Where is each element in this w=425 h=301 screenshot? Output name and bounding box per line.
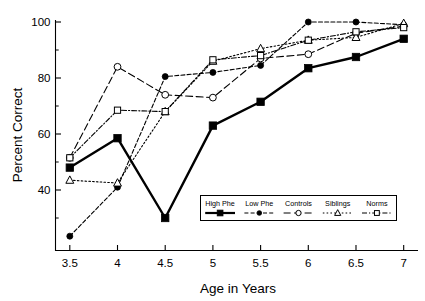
x-tick-label: 3.5 <box>62 257 78 269</box>
data-point-marker-filled-circle <box>353 19 359 25</box>
data-point-marker-open-circle <box>210 94 217 101</box>
x-tick-label: 5 <box>210 257 216 269</box>
data-point-marker-filled-circle <box>258 62 264 68</box>
legend-label: Controls <box>285 199 312 208</box>
x-tick-label: 6 <box>305 257 311 269</box>
data-point-marker-open-square <box>257 53 263 59</box>
data-point-marker-filled-square <box>114 135 121 142</box>
data-point-marker-filled-circle <box>162 74 168 80</box>
x-tick-label: 7 <box>400 257 406 269</box>
x-tick-label: 5.5 <box>253 257 269 269</box>
data-point-marker-filled-square <box>257 98 264 105</box>
data-point-marker-open-square <box>114 107 120 113</box>
x-tick-label: 6.5 <box>348 257 364 269</box>
data-point-marker-filled-square <box>66 164 73 171</box>
data-point-marker-open-square <box>353 29 359 35</box>
data-point-marker-filled-square <box>162 214 169 221</box>
data-point-marker-filled-square <box>400 35 407 42</box>
x-axis-title: Age in Years <box>200 281 276 296</box>
legend-label: Norms <box>366 199 388 208</box>
data-point-marker-filled-square <box>305 65 312 72</box>
x-tick-label: 4 <box>114 257 121 269</box>
data-point-marker-open-square <box>210 57 216 63</box>
data-point-marker-filled-circle <box>305 19 311 25</box>
legend-label: Low Phe <box>245 199 273 208</box>
data-point-marker-open-circle <box>305 51 312 58</box>
line-chart: 406080100 3.544.555.566.57 Percent Corre… <box>0 0 425 301</box>
y-axis-title: Percent Correct <box>10 87 25 182</box>
legend-entry-high-phe: High Phe <box>205 199 235 216</box>
chart-legend: High PheLow PheControlsSiblingsNorms <box>201 196 397 221</box>
data-point-marker-open-square <box>162 109 168 115</box>
data-point-marker-open-circle <box>296 210 301 215</box>
legend-entry-norms: Norms <box>362 199 392 215</box>
data-point-marker-open-square <box>374 211 379 216</box>
y-tick-label: 40 <box>38 184 51 196</box>
data-point-marker-filled-circle <box>210 69 216 75</box>
legend-label: Siblings <box>325 199 351 208</box>
data-point-marker-open-square <box>305 37 311 43</box>
data-point-marker-open-circle <box>114 63 121 70</box>
data-point-marker-filled-square <box>352 53 359 60</box>
data-point-marker-filled-circle <box>67 233 73 239</box>
y-tick-label: 80 <box>38 72 51 84</box>
chart-figure: 406080100 3.544.555.566.57 Percent Corre… <box>0 0 425 301</box>
data-point-marker-open-circle <box>162 91 169 98</box>
data-point-marker-open-square <box>67 155 73 161</box>
x-tick-label: 4.5 <box>157 257 173 269</box>
y-tick-label: 60 <box>38 128 51 140</box>
y-tick-label: 100 <box>31 16 50 28</box>
data-point-marker-filled-square <box>217 210 223 216</box>
data-point-marker-filled-square <box>209 122 216 129</box>
data-point-marker-filled-circle <box>257 211 262 216</box>
legend-entry-controls: Controls <box>284 199 314 216</box>
data-point-marker-open-square <box>401 25 407 31</box>
legend-label: High Phe <box>205 199 235 208</box>
